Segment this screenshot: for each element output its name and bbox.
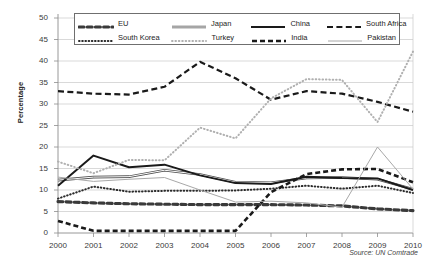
- legend-label-turkey: Turkey: [211, 33, 234, 42]
- series-eu: [58, 202, 413, 211]
- line-chart: Percentage 05101520253035404550 20002001…: [0, 0, 426, 276]
- legend-label-china: China: [290, 19, 310, 28]
- legend-item-india[interactable]: India: [251, 30, 327, 44]
- legend-label-south-africa: South Africa: [366, 19, 406, 28]
- legend-swatch-japan: [171, 18, 207, 28]
- x-axis-tick-label: 2007: [287, 242, 327, 250]
- x-axis-tick-label: 2001: [74, 242, 114, 250]
- legend-label-pakistan: Pakistan: [367, 33, 396, 42]
- legend-swatch-india: [251, 32, 287, 42]
- x-axis-tick-label: 2004: [180, 242, 220, 250]
- x-axis-tick-label: 2003: [145, 242, 185, 250]
- legend-swatch-china: [250, 18, 286, 28]
- legend-swatch-south-africa: [326, 18, 362, 28]
- legend-label-south-korea: South Korea: [118, 33, 160, 42]
- legend-label-india: India: [291, 33, 307, 42]
- legend-row: South Korea Turkey India Pakistan: [78, 30, 396, 44]
- source-note: Source: UN Comtrade: [349, 249, 418, 256]
- legend-item-pakistan[interactable]: Pakistan: [327, 30, 396, 44]
- legend-item-japan[interactable]: Japan: [171, 16, 250, 30]
- legend-swatch-pakistan: [327, 32, 363, 42]
- legend-item-china[interactable]: China: [250, 16, 326, 30]
- x-axis-tick-label: 2005: [216, 242, 256, 250]
- legend-swatch-turkey: [171, 32, 207, 42]
- legend-row: EU Japan China South Africa: [78, 16, 396, 30]
- series-china: [58, 156, 413, 190]
- legend-swatch-south-korea: [78, 32, 114, 42]
- chart-legend: EU Japan China South Africa South Korea: [74, 13, 400, 45]
- x-axis-tick-label: 2000: [38, 242, 78, 250]
- series-south-korea: [58, 186, 413, 199]
- legend-item-south-korea[interactable]: South Korea: [78, 30, 171, 44]
- legend-item-south-africa[interactable]: South Africa: [326, 16, 396, 30]
- legend-item-turkey[interactable]: Turkey: [171, 30, 251, 44]
- legend-item-eu[interactable]: EU: [78, 16, 171, 30]
- series-turkey: [58, 52, 413, 174]
- x-axis-tick-label: 2006: [251, 242, 291, 250]
- legend-label-eu: EU: [118, 19, 128, 28]
- x-axis-tick-label: 2002: [109, 242, 149, 250]
- legend-label-japan: Japan: [211, 19, 231, 28]
- legend-swatch-eu: [78, 18, 114, 28]
